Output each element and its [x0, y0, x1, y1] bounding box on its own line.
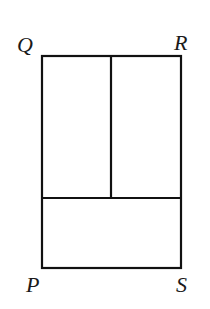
vertex-label-r: R — [173, 30, 188, 55]
vertex-label-s: S — [176, 272, 187, 297]
rectangle-diagram: Q R P S — [0, 0, 210, 309]
vertex-label-q: Q — [17, 32, 33, 57]
vertex-label-p: P — [25, 272, 39, 297]
